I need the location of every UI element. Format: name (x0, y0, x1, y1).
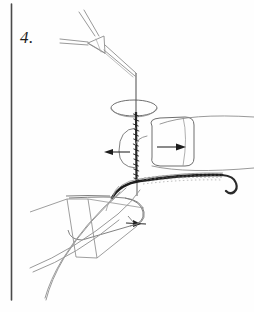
suture-stipple-row (142, 176, 222, 184)
parallelogram-guide (30, 199, 144, 258)
line-drawing-svg (0, 0, 254, 312)
tissue-block-rounded-rect (151, 117, 194, 166)
needle-holder-instrument (60, 10, 136, 77)
arrow-right-tissue (157, 144, 186, 151)
figure-canvas: 4. (0, 0, 254, 312)
figure-step-number: 4. (20, 28, 34, 48)
arrow-left-traction (104, 149, 130, 155)
suture-thread-vertical (133, 73, 139, 196)
flap-edge-curve (112, 173, 237, 198)
